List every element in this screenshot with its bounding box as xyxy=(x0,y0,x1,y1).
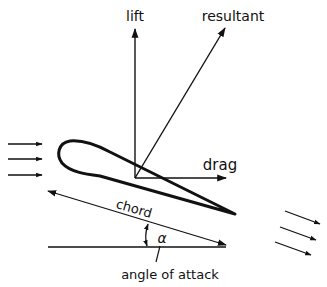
outgoing-flow-arrow xyxy=(285,211,320,224)
alpha-label: α xyxy=(157,230,167,246)
incoming-flow-arrows xyxy=(8,144,42,175)
outgoing-flow-arrow xyxy=(280,227,316,240)
outgoing-flow-arrows xyxy=(275,211,320,255)
angle-arc xyxy=(146,224,148,246)
resultant-label: resultant xyxy=(202,8,265,24)
outgoing-flow-arrow xyxy=(275,242,311,255)
angle-label-leader xyxy=(156,246,160,262)
angle-of-attack-label: angle of attack xyxy=(121,267,219,282)
diagram-svg: lift resultant drag chord α angle of att… xyxy=(0,0,327,287)
airfoil-diagram: lift resultant drag chord α angle of att… xyxy=(0,0,327,287)
drag-label: drag xyxy=(203,156,237,174)
chord-line xyxy=(48,191,226,245)
lift-label: lift xyxy=(126,8,144,24)
